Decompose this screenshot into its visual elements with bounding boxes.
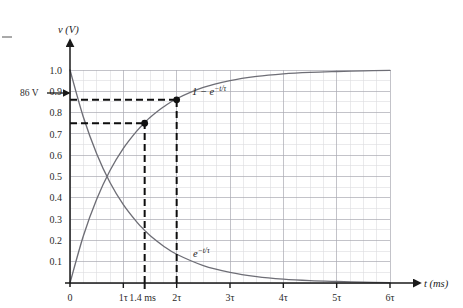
- x-tick-label-6tau: 6τ: [385, 292, 394, 303]
- point-2tau: [173, 96, 180, 103]
- x-tick-label-0: 0: [68, 292, 73, 303]
- y-tick-label-0.1: 0.1: [50, 256, 63, 267]
- x-tick-label-5tau: 5τ: [332, 292, 341, 303]
- point-1p4ms: [141, 120, 148, 127]
- y-axis-title: v (V): [58, 24, 79, 36]
- y-tick-label-0.9: 0.9: [50, 86, 63, 97]
- data-point-markers: [141, 96, 180, 126]
- x-axis-title: t (ms): [424, 278, 449, 290]
- x-tick-label-4tau: 4τ: [279, 292, 288, 303]
- x-tick-label-1tau: 1τ: [119, 292, 128, 303]
- y-tick-label-0.4: 0.4: [50, 192, 63, 203]
- axis-tick-marks: [123, 283, 390, 289]
- y-tick-label-1.0: 1.0: [50, 65, 63, 76]
- x-tick-label-3tau: 3τ: [225, 292, 234, 303]
- y-tick-label-0.8: 0.8: [50, 107, 63, 118]
- rc-transient-voltage-chart: 0.10.20.30.40.50.60.70.80.91.0 01τ2τ3τ4τ…: [0, 0, 463, 308]
- y-tick-label-0.3: 0.3: [50, 214, 63, 225]
- axis-lines: [65, 40, 420, 287]
- figure-canvas: 0.10.20.30.40.50.60.70.80.91.0 01τ2τ3τ4τ…: [0, 0, 463, 308]
- label-rising-curve: 1 − e−t/τ: [192, 84, 226, 97]
- y-tick-label-0.6: 0.6: [50, 150, 63, 161]
- y-tick-label-0.7: 0.7: [50, 129, 63, 140]
- x-tick-label-1p4ms: 1.4 ms: [129, 292, 156, 303]
- x-tick-label-2tau: 2τ: [172, 292, 181, 303]
- label-falling-curve: e−t/τ: [193, 246, 210, 259]
- svg-text:86 V: 86 V: [20, 88, 39, 98]
- y-tick-label-0.2: 0.2: [50, 235, 63, 246]
- y-tick-label-0.5: 0.5: [50, 171, 63, 182]
- x-axis-tick-labels: 01τ2τ3τ4τ5τ6τ1.4 ms: [68, 292, 395, 303]
- y-axis-tick-labels: 0.10.20.30.40.50.60.70.80.91.0: [50, 65, 63, 268]
